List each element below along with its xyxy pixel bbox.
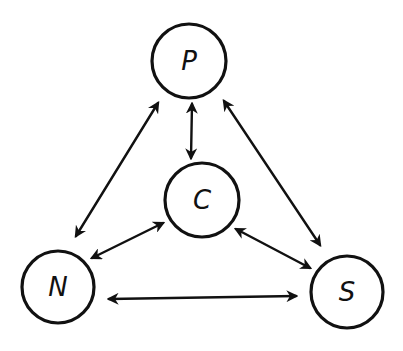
- node-n: N: [22, 251, 94, 323]
- edge-p-n-double-arrow: [76, 103, 158, 236]
- edge-c-n-double-arrow: [92, 223, 163, 258]
- node-c: C: [165, 163, 239, 237]
- node-label: S: [339, 277, 356, 307]
- node-p: P: [152, 24, 226, 98]
- node-label: N: [48, 272, 67, 302]
- edge-p-s-double-arrow: [224, 101, 320, 245]
- node-s: S: [311, 256, 383, 328]
- diagram-canvas: PCNS: [0, 0, 403, 351]
- edge-n-s-double-arrow: [109, 296, 296, 299]
- edge-c-s-double-arrow: [236, 229, 310, 268]
- node-label: C: [193, 185, 212, 215]
- node-label: P: [181, 46, 197, 76]
- nodes-layer: PCNS: [22, 24, 383, 328]
- edge-p-c-double-arrow: [191, 104, 192, 158]
